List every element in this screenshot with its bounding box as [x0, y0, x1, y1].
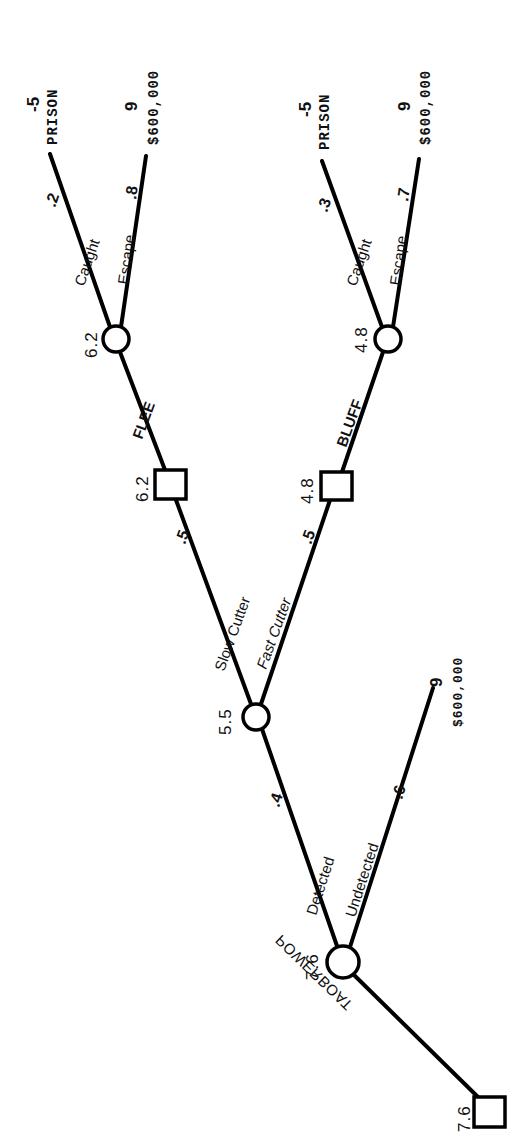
- bluff-decision-value: 4.8: [298, 477, 317, 504]
- edge-flee-caught: [50, 154, 110, 327]
- undetected-payoff: 9: [427, 678, 446, 687]
- undetected-prob: .6: [389, 783, 409, 801]
- bluff-caught-label: Caught: [343, 236, 375, 288]
- root-decision-node: [474, 1097, 505, 1127]
- slow-cutter-label: Slow Cutter: [211, 594, 253, 673]
- decision-tree-diagram: 7.6 7.6 5.5 6.2 4.8 6.2 4.8 POWERBOAT De…: [0, 0, 524, 1141]
- bluff-escape-label: Escape: [386, 234, 410, 286]
- flee-caught-label: Caught: [71, 236, 103, 288]
- bluff-chance-node: [375, 326, 401, 352]
- fast-cutter-label: Fast Cutter: [253, 595, 295, 671]
- flee-caught-payoff: -5: [24, 97, 43, 112]
- flee-escape-prob: .8: [122, 185, 141, 201]
- edge-fast-cutter: [261, 500, 330, 704]
- bluff-chance-value: 4.8: [352, 326, 371, 353]
- flee-escape-label: Escape: [114, 233, 138, 285]
- flee-caught-outcome: PRISON: [45, 89, 61, 145]
- bluff-caught-outcome: PRISON: [317, 94, 333, 150]
- bluff-caught-payoff: -5: [296, 102, 315, 117]
- edge-undetected: [350, 688, 433, 947]
- bluff-escape-payoff: 9: [395, 102, 414, 111]
- undetected-outcome: $600,000: [451, 657, 466, 727]
- flee-escape-payoff: 9: [122, 102, 141, 111]
- bluff-escape-prob: .7: [394, 187, 413, 203]
- undetected-label: Undetected: [342, 841, 382, 919]
- cutter-chance-node: [243, 704, 269, 730]
- flee-decision-value: 6.2: [133, 475, 152, 502]
- flee-decision-node: [155, 470, 186, 499]
- flee-escape-outcome: $600,000: [146, 70, 162, 145]
- bluff-decision-node: [321, 472, 352, 500]
- flee-caught-prob: .2: [42, 191, 62, 209]
- root-value: 7.6: [455, 1105, 474, 1132]
- bluff-caught-prob: .3: [314, 196, 334, 214]
- slow-cutter-prob: .5: [172, 528, 193, 546]
- flee-chance-node: [103, 326, 129, 352]
- edge-detected: [262, 729, 337, 946]
- detection-chance-node: [327, 946, 359, 978]
- edge-powerboat: [353, 974, 480, 1099]
- flee-chance-value: 6.2: [82, 331, 101, 358]
- bluff-escape-outcome: $600,000: [418, 70, 434, 145]
- cutter-node-value: 5.5: [216, 708, 235, 735]
